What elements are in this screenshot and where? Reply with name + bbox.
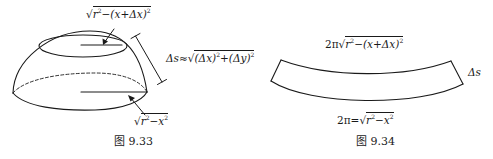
- band-width-label: Δs: [468, 67, 481, 78]
- hemisphere-figure: [13, 29, 167, 115]
- bracket-cap-bottom: [158, 80, 167, 85]
- dome-outline: [13, 31, 147, 93]
- diagram-canvas: [0, 0, 493, 159]
- base-back-arc: [13, 73, 147, 93]
- base-radius-label: √r2−x2: [134, 113, 168, 127]
- top-slice-ellipse: [39, 35, 127, 57]
- arrowhead-bottom: [128, 95, 135, 102]
- top-slice-radius-label: √r2−(x+Δx)2: [86, 6, 151, 20]
- band-figure: [271, 60, 463, 101]
- figure-caption-9-33: 图 9.33: [114, 136, 153, 147]
- band-left-edge: [271, 60, 281, 81]
- top-circumference-label: 2π√r2−(x+Δx)2: [325, 36, 403, 50]
- band-bottom-arc: [271, 81, 463, 101]
- band-right-edge: [451, 61, 463, 84]
- bottom-circumference-label: 2π=√r2−x2: [337, 112, 394, 126]
- arc-length-bracket: [136, 36, 163, 82]
- arrowhead-top: [103, 39, 109, 46]
- figure-caption-9-34: 图 9.34: [356, 136, 395, 147]
- base-front-arc: [13, 92, 147, 110]
- band-top-arc: [281, 60, 451, 74]
- bracket-cap-top: [131, 34, 140, 39]
- arc-length-label: Δs≈√(Δx)2+(Δy)2: [166, 50, 254, 64]
